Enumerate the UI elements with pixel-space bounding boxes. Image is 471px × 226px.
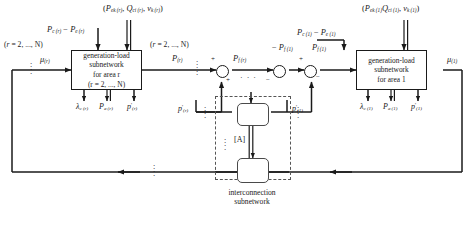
- sign-plus-j1-top: +: [211, 55, 215, 63]
- label-Pprime-r: p'(r): [127, 103, 137, 112]
- label-Pf-1: Pf (1): [312, 44, 326, 52]
- block-1-line2: subnetwork: [374, 65, 409, 75]
- block-r-line4: (r = 2, ..., N): [88, 80, 125, 90]
- label-Pa-1: Pa (1): [383, 103, 397, 112]
- block-1-line3: for area 1: [377, 75, 405, 85]
- label-triple-r: (Pek (r), Qci (r), vk (r)): [103, 5, 163, 13]
- label-Pprime-1: p'(1): [411, 103, 422, 112]
- ellipsis-left-input: ....: [30, 60, 32, 73]
- ellipsis-horizontal-j2: · · ·: [240, 74, 257, 82]
- label-pc-minus-pe-r: Pc (r) − Pe (r): [47, 26, 84, 34]
- block-r-line3: for area r: [93, 70, 120, 80]
- sign-plus-j3: +: [299, 55, 303, 63]
- summing-junction-2: [273, 65, 286, 78]
- label-Pf-r: Pf (r): [233, 55, 246, 63]
- ellipsis-bottom-bus: ....: [153, 162, 155, 175]
- label-lambda-1: λc (1): [360, 103, 373, 112]
- block-generation-load-area-r: generation-load subnetwork for area r (r…: [71, 50, 142, 90]
- label-mu-1: μ(1): [447, 56, 457, 64]
- caption-line-1: interconnection: [194, 188, 310, 197]
- ellipsis-P-r-line: .....: [196, 58, 198, 74]
- block-r-line1: generation-load: [83, 51, 129, 61]
- ellipsis-j1-feed: ....: [204, 104, 206, 117]
- label-range-left: (r = 2, ..., N): [4, 41, 43, 49]
- label-Pa-r: Pa (r): [99, 103, 113, 112]
- ellipsis-j2-right: ....: [297, 104, 299, 117]
- label-mu-r: μ(r): [40, 56, 50, 64]
- diagram-canvas: generation-load subnetwork for area r (r…: [0, 0, 471, 226]
- interconnection-block-bottom: [237, 158, 269, 183]
- sign-minus-j2: −: [266, 76, 270, 84]
- interconnection-caption: interconnection subnetwork: [194, 188, 310, 207]
- sign-plus-j1-bottom: +: [226, 76, 230, 84]
- label-pc-minus-pe-1: Pc (1) − Pe (1): [297, 29, 335, 37]
- block-1-line1: generation-load: [368, 56, 414, 66]
- sign-minus-j3: −: [316, 73, 320, 81]
- block-r-line2: subnetwork: [89, 60, 124, 70]
- block-generation-load-area-1: generation-load subnetwork for area 1: [356, 50, 427, 90]
- label-minus-Pf-1: − Pf (1): [272, 44, 293, 52]
- label-range-mid: (r = 2, ..., N): [150, 41, 189, 49]
- caption-line-2: subnetwork: [194, 197, 310, 206]
- label-p-prime-r: p'(r): [178, 105, 188, 114]
- label-lambda-r: λc (r): [76, 103, 88, 112]
- label-P-r: P(r): [172, 55, 183, 63]
- label-matrix-A: [A]: [234, 136, 245, 144]
- ellipsis-interconnect-mid: ....: [224, 136, 226, 149]
- interconnection-block-top: [237, 103, 269, 126]
- label-triple-1: (Pek (1)Qci (1), vk (1)): [362, 5, 419, 13]
